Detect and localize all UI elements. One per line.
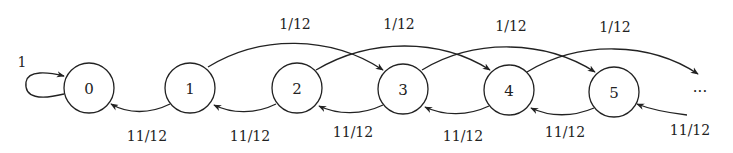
svg-text:2: 2 [292, 80, 302, 98]
state-node-3: 3 [378, 64, 428, 114]
svg-text:5: 5 [609, 84, 619, 102]
state-node-1: 1 [165, 63, 215, 113]
label-edge-2-4: 1/12 [383, 16, 414, 32]
edge-4-to-3 [425, 106, 489, 114]
edge-3-to-2 [319, 105, 383, 113]
svg-text:4: 4 [504, 82, 514, 100]
edge-2-to-1 [214, 104, 276, 112]
markov-chain-diagram: 1 1/12 1/12 1/12 1/12 11/12 11/12 11/12 … [0, 0, 733, 153]
label-edge-more-5: 11/12 [670, 122, 710, 138]
continuation-ellipsis: ··· [693, 82, 707, 100]
label-edge-4-3: 11/12 [443, 128, 483, 144]
svg-text:0: 0 [84, 80, 94, 98]
edge-1-to-0 [111, 104, 170, 112]
label-edge-1-3: 1/12 [279, 16, 310, 32]
edge-more-to-5 [637, 104, 687, 115]
svg-text:1: 1 [185, 80, 195, 98]
label-edge-1-0: 11/12 [127, 128, 167, 144]
state-node-5: 5 [589, 67, 639, 117]
label-edge-3-5: 1/12 [495, 18, 526, 34]
label-edge-3-2: 11/12 [333, 124, 373, 140]
label-edge-4-more: 1/12 [599, 19, 630, 35]
state-node-4: 4 [484, 65, 534, 115]
edge-5-to-4 [531, 108, 594, 115]
self-loop-label: 1 [18, 54, 27, 70]
self-loop-edge-0 [26, 73, 64, 97]
label-edge-2-1: 11/12 [230, 128, 270, 144]
label-edge-5-4: 11/12 [545, 124, 585, 140]
diagram-svg: 1 1/12 1/12 1/12 1/12 11/12 11/12 11/12 … [0, 0, 733, 153]
state-node-0: 0 [64, 63, 114, 113]
state-node-2: 2 [272, 63, 322, 113]
svg-text:3: 3 [398, 81, 408, 99]
